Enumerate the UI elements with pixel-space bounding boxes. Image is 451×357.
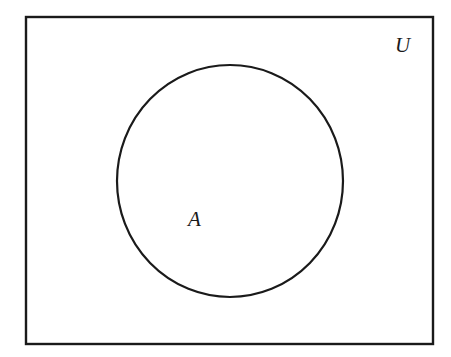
venn-diagram: U A xyxy=(0,0,451,357)
set-a-circle xyxy=(117,65,343,297)
universal-set-label: U xyxy=(395,33,412,57)
set-a-label: A xyxy=(186,207,201,231)
